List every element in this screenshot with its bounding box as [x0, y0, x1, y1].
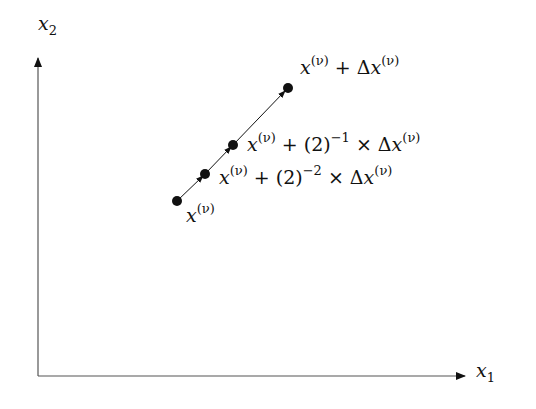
diagram-canvas	[0, 0, 536, 409]
label-tail: × Δ	[350, 133, 392, 155]
label-quarter-step: x(ν) + (2)−2 × Δx(ν)	[219, 168, 392, 187]
label-var: x	[247, 133, 258, 155]
label-rest: + Δ	[329, 56, 371, 78]
step-segment-1	[177, 176, 203, 201]
y-axis-sub: 2	[49, 23, 57, 38]
label-var2: x	[364, 166, 375, 188]
y-axis-label: x2	[38, 14, 57, 33]
label-sup2: (ν)	[402, 130, 420, 145]
label-sup: (ν)	[258, 130, 276, 145]
label-var2: x	[371, 56, 382, 78]
label-var2: x	[392, 133, 403, 155]
x-axis-sub: 1	[487, 370, 495, 385]
label-rest: + (2)	[248, 166, 303, 188]
label-var: x	[219, 166, 230, 188]
label-sup: (ν)	[197, 201, 215, 216]
label-rest: + (2)	[276, 133, 331, 155]
label-full-step: x(ν) + Δx(ν)	[300, 58, 399, 77]
label-exp: −2	[303, 163, 322, 178]
label-tail: × Δ	[322, 166, 364, 188]
y-axis-var: x	[38, 12, 49, 34]
point-x-nu	[172, 196, 182, 206]
label-exp: −1	[331, 130, 350, 145]
label-sup2: (ν)	[374, 163, 392, 178]
point-quarter-step	[200, 169, 210, 179]
label-sup: (ν)	[311, 53, 329, 68]
label-var: x	[186, 204, 197, 226]
label-half-step: x(ν) + (2)−1 × Δx(ν)	[247, 135, 420, 154]
label-sup: (ν)	[230, 163, 248, 178]
label-var: x	[300, 56, 311, 78]
label-sup2: (ν)	[381, 53, 399, 68]
label-x-nu: x(ν)	[186, 206, 215, 225]
x-axis-label: x1	[476, 361, 495, 380]
point-half-step	[228, 140, 238, 150]
point-full-step	[283, 83, 293, 93]
x-axis-var: x	[476, 359, 487, 381]
